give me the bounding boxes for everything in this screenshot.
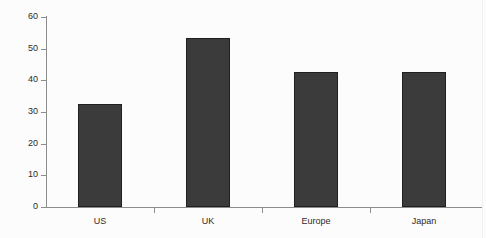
y-tick-label: 20	[4, 139, 38, 148]
y-tick-label: 30	[4, 107, 38, 116]
y-tick-label-wrap: 40	[0, 75, 38, 84]
y-tick-label-wrap: 50	[0, 44, 38, 53]
x-axis-label-uk: UK	[154, 216, 262, 227]
y-tick-0	[41, 207, 46, 208]
x-tick-1	[262, 208, 263, 213]
bar-japan[interactable]	[402, 72, 446, 207]
y-tick-label: 10	[4, 170, 38, 179]
scan-edge-line	[482, 0, 483, 238]
x-axis-label-europe: Europe	[262, 216, 370, 227]
bar-us[interactable]	[78, 104, 122, 207]
plot-area	[46, 17, 478, 207]
y-tick-label: 50	[4, 44, 38, 53]
y-tick-label: 40	[4, 75, 38, 84]
x-tick-0	[154, 208, 155, 213]
bar-uk[interactable]	[186, 38, 230, 207]
x-axis-line	[46, 207, 482, 208]
y-tick-label-wrap: 60	[0, 12, 38, 21]
y-tick-label-wrap: 30	[0, 107, 38, 116]
y-tick-label: 0	[4, 202, 38, 211]
y-tick-label-wrap: 20	[0, 139, 38, 148]
bar-chart: 0102030405060 USUKEuropeJapan	[0, 0, 486, 238]
y-tick-label-wrap: 10	[0, 170, 38, 179]
x-axis-label-us: US	[46, 216, 154, 227]
y-tick-label: 60	[4, 12, 38, 21]
x-tick-2	[370, 208, 371, 213]
y-tick-label-wrap: 0	[0, 202, 38, 211]
bar-europe[interactable]	[294, 72, 338, 207]
x-axis-label-japan: Japan	[370, 216, 478, 227]
